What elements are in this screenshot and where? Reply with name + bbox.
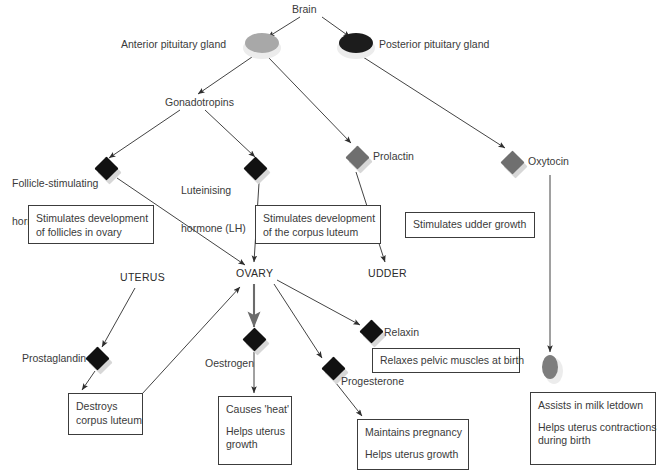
box-line: growth <box>226 438 284 452</box>
label-relaxin: Relaxin <box>384 326 419 339</box>
edge-anterior-gonadotropins <box>198 57 252 94</box>
box-line: Destroys <box>76 400 135 414</box>
diagram-canvas: Brain Anterior pituitary gland Posterior… <box>0 0 664 474</box>
box-progesterone-effect: Maintains pregnancy Helps uterus growth <box>357 419 469 470</box>
box-line: Stimulates development <box>36 212 146 226</box>
label-oestrogen: Oestrogen <box>205 357 254 370</box>
label-brain: Brain <box>292 3 317 16</box>
label-anterior-pituitary-gland: Anterior pituitary gland <box>121 38 226 51</box>
label-udder: UDDER <box>368 267 407 280</box>
edge-gonadotropins-lh <box>205 110 255 157</box>
label-gonadotropins: Gonadotropins <box>165 96 234 109</box>
box-relaxin-effect: Relaxes pelvic muscles at birth <box>372 348 520 373</box>
edge-gonadotropins-fsh <box>109 110 180 158</box>
edge-uterus-prostaglandin <box>102 288 135 347</box>
label-ovary: OVARY <box>236 267 273 280</box>
box-prolactin-effect: Stimulates udder growth <box>405 212 535 238</box>
box-line: of follicles in ovary <box>36 226 146 240</box>
box-line: Helps uterus contractions <box>538 421 648 435</box>
label-oxytocin: Oxytocin <box>528 155 569 168</box>
edge-ovary-progesterone <box>274 284 322 358</box>
box-prostaglandin-effect: Destroys corpus luteum <box>68 393 143 435</box>
edge-prostaglandin-destroys <box>82 371 95 390</box>
box-line: during birth <box>538 434 648 448</box>
box-line: Maintains pregnancy <box>365 426 461 440</box>
edge-destroys-ovary <box>142 287 240 394</box>
edge-anterior-prolactin <box>268 57 351 143</box>
label-prostaglandin: Prostaglandin <box>22 352 86 365</box>
box-line: Helps uterus growth <box>365 448 461 462</box>
box-fsh-effect: Stimulates development of follicles in o… <box>28 205 154 244</box>
box-line: Stimulates development <box>263 212 373 226</box>
edge-posterior-oxytocin <box>363 57 505 148</box>
box-oxytocin-effect: Assists in milk letdown Helps uterus con… <box>530 392 656 465</box>
label-posterior-pituitary-gland: Posterior pituitary gland <box>379 38 489 51</box>
box-line: Assists in milk letdown <box>538 399 648 413</box>
box-spacer <box>538 413 648 421</box>
label-lh-line2: hormone (LH) <box>181 222 246 235</box>
label-lh-line1: Luteinising <box>181 184 246 197</box>
label-uterus: UTERUS <box>120 271 165 284</box>
box-spacer <box>365 440 461 448</box>
gland-body <box>245 33 279 53</box>
label-progesterone: Progesterone <box>341 375 404 388</box>
box-spacer <box>226 417 284 425</box>
edge-brain-anterior <box>268 17 300 37</box>
gland-body <box>339 33 373 53</box>
box-lh-effect: Stimulates development of the corpus lut… <box>255 205 381 244</box>
box-line: of the corpus luteum <box>263 226 373 240</box>
box-line: Relaxes pelvic muscles at birth <box>380 354 512 368</box>
gland-body <box>542 355 558 379</box>
box-line: Helps uterus <box>226 425 284 439</box>
box-line: corpus luteum <box>76 414 135 428</box>
box-line: Causes 'heat' <box>226 403 284 417</box>
label-prolactin: Prolactin <box>373 150 414 163</box>
box-oestrogen-effect: Causes 'heat' Helps uterus growth <box>218 396 292 465</box>
box-line: Stimulates udder growth <box>413 218 527 232</box>
label-fsh-line1: Follicle-stimulating <box>12 177 98 190</box>
label-lh: Luteinising hormone (LH) <box>181 159 246 259</box>
edge-ovary-relaxin <box>277 280 360 325</box>
